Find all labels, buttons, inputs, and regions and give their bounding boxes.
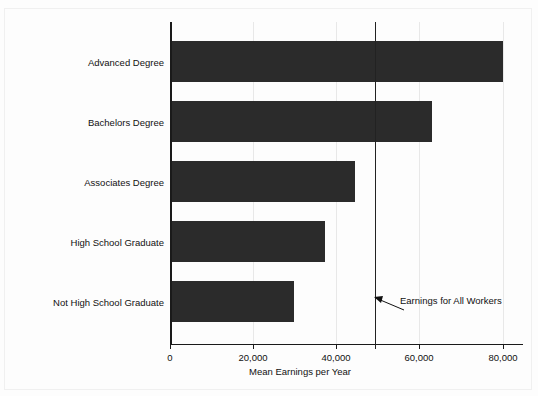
bar-associates-degree xyxy=(170,161,355,202)
y-tick-label-high-school-graduate: High School Graduate xyxy=(4,237,164,248)
y-tick-label-associates-degree: Associates Degree xyxy=(4,177,164,188)
x-axis-title: Mean Earnings per Year xyxy=(0,366,538,377)
x-tick-mark-40000 xyxy=(336,344,337,349)
x-tick-mark-20000 xyxy=(253,344,254,349)
bar-high-school-graduate xyxy=(170,221,325,262)
bar-advanced-degree xyxy=(170,41,503,82)
x-tick-label-20000: 20,000 xyxy=(238,352,267,363)
annotation-label: Earnings for All Workers xyxy=(400,295,502,306)
x-tick-label-80000: 80,000 xyxy=(488,352,517,363)
gridline-80000 xyxy=(503,22,504,345)
bar-bachelors-degree xyxy=(170,101,432,142)
x-axis-title-text: Mean Earnings per Year xyxy=(249,366,351,377)
y-tick-label-not-high-school-graduate: Not High School Graduate xyxy=(4,297,164,308)
x-tick-label-0: 0 xyxy=(167,352,172,363)
x-tick-label-40000: 40,000 xyxy=(321,352,350,363)
x-tick-mark-80000 xyxy=(503,344,504,349)
x-axis-spine xyxy=(170,344,523,345)
bar-chart-figure: Advanced Degree Bachelors Degree Associa… xyxy=(0,0,538,396)
y-tick-label-bachelors-degree: Bachelors Degree xyxy=(4,117,164,128)
bar-not-high-school-graduate xyxy=(170,281,294,322)
x-tick-label-60000: 60,000 xyxy=(404,352,433,363)
y-tick-label-advanced-degree: Advanced Degree xyxy=(4,57,164,68)
x-tick-mark-60000 xyxy=(419,344,420,349)
y-axis-spine xyxy=(170,22,172,345)
y-axis-tick-labels: Advanced Degree Bachelors Degree Associa… xyxy=(0,0,164,396)
x-tick-mark-0 xyxy=(170,344,171,349)
